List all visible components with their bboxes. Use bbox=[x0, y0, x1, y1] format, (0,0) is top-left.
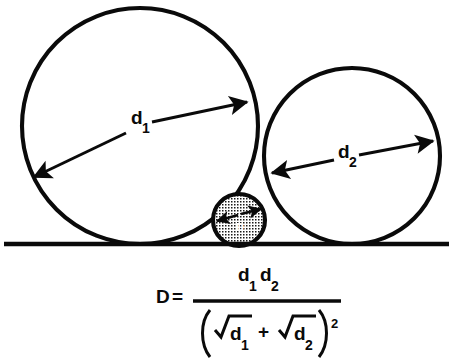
denominator-right-paren bbox=[319, 310, 327, 357]
numerator-d2-sub: 2 bbox=[271, 278, 279, 294]
numerator-d1-sub: 1 bbox=[249, 278, 257, 294]
d1-label: d bbox=[131, 107, 143, 128]
formula-lhs: D bbox=[156, 286, 170, 307]
circles-diagram-svg: d 1 d 2 D D = d 1 d bbox=[0, 0, 454, 359]
formula-equals: = bbox=[172, 286, 183, 307]
denominator-left-paren bbox=[203, 310, 211, 357]
d1-dimension: d 1 bbox=[34, 102, 247, 177]
denominator-d1-base: d bbox=[230, 323, 242, 344]
d2-label-subscript: 2 bbox=[349, 154, 357, 170]
D-label-small-circle: D bbox=[236, 221, 244, 233]
d2-arrow-left-segment bbox=[272, 160, 334, 173]
numerator-d2-base: d bbox=[260, 264, 272, 285]
formula-denominator: d 1 + d 2 2 bbox=[203, 310, 339, 357]
denominator-d1-sub: 1 bbox=[241, 337, 249, 353]
formula-group: D = d 1 d 2 d 1 + bbox=[156, 264, 341, 357]
d2-label: d bbox=[338, 141, 350, 162]
numerator-d1-base: d bbox=[238, 264, 250, 285]
denominator-d2-sub: 2 bbox=[305, 337, 313, 353]
denominator-d2-base: d bbox=[294, 323, 306, 344]
d2-arrow-right-segment bbox=[359, 141, 433, 155]
circle-group bbox=[22, 8, 440, 246]
d1-arrow-left-segment bbox=[34, 133, 126, 177]
d2-dimension: d 2 bbox=[272, 141, 433, 173]
denominator-exponent: 2 bbox=[331, 316, 338, 331]
denominator-plus: + bbox=[258, 321, 269, 342]
figure-root: d 1 d 2 D D = d 1 d bbox=[0, 0, 454, 359]
formula-numerator: d 1 d 2 bbox=[238, 264, 279, 294]
d1-arrow-right-segment bbox=[152, 102, 247, 122]
d1-label-subscript: 1 bbox=[142, 120, 150, 136]
